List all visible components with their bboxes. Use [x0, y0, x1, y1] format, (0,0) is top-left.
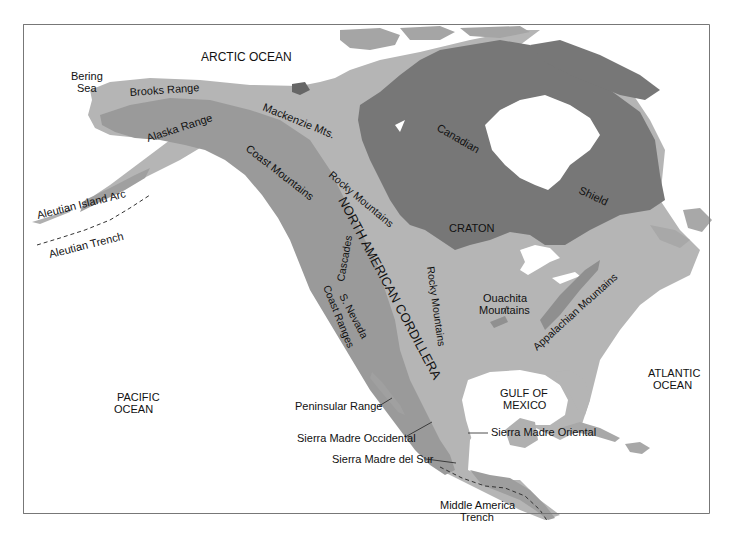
- label-arctic-ocean: ARCTIC OCEAN: [201, 50, 292, 64]
- label-ouachita-line2: Mountains: [479, 304, 530, 316]
- label-bering-line2: Sea: [77, 82, 97, 94]
- label-ouachita-line1: Ouachita: [483, 292, 528, 304]
- label-craton: CRATON: [449, 222, 494, 234]
- label-atlantic-line1: ATLANTIC: [648, 367, 700, 379]
- label-gulf-line2: MEXICO: [503, 399, 547, 411]
- label-bering-line1: Bering: [71, 70, 103, 82]
- label-middle-america-line2: Trench: [460, 511, 494, 523]
- label-pacific-line2: OCEAN: [114, 403, 153, 415]
- label-pacific-line1: PACIFIC: [117, 391, 160, 403]
- label-peninsular-range: Peninsular Range: [295, 400, 382, 412]
- label-sierra-madre-oriental: Sierra Madre Oriental: [491, 426, 596, 438]
- label-sierra-madre-del-sur: Sierra Madre del Sur: [332, 453, 434, 465]
- label-middle-america-line1: Middle America: [440, 499, 516, 511]
- label-gulf-line1: GULF OF: [500, 387, 548, 399]
- label-atlantic-line2: OCEAN: [653, 379, 692, 391]
- label-sierra-madre-occidental: Sierra Madre Occidental: [297, 432, 416, 444]
- map-canvas: ARCTIC OCEAN Bering Sea Brooks Range Ala…: [0, 0, 751, 556]
